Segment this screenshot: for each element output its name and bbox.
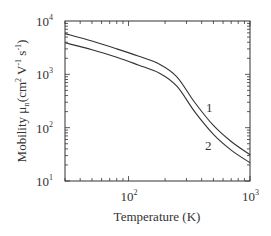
mobility-chart: 101102103104 102103 1 2 Temperature (K) …	[0, 0, 271, 236]
data-curves	[65, 34, 250, 163]
x-tick-label: 102	[121, 188, 138, 204]
y-tick-label: 102	[36, 120, 53, 136]
y-tick-label: 101	[36, 173, 53, 189]
axis-ticks	[65, 21, 250, 181]
curve-2	[65, 43, 250, 163]
y-axis-title: Mobility μn(cm2 V-1 s-1)	[14, 40, 31, 163]
curve-1	[65, 34, 250, 155]
y-tick-labels: 101102103104	[36, 13, 53, 189]
plot-frame	[65, 21, 250, 181]
x-axis-title: Temperature (K)	[114, 209, 201, 224]
series-label-1: 1	[206, 100, 213, 115]
y-axis-title-text: Mobility μn(cm2 V-1 s-1)	[14, 40, 31, 163]
x-tick-label: 103	[242, 188, 259, 204]
series-label-2: 2	[205, 138, 212, 153]
y-tick-label: 104	[36, 13, 53, 29]
x-tick-labels: 102103	[121, 188, 259, 204]
y-tick-label: 103	[36, 66, 53, 82]
